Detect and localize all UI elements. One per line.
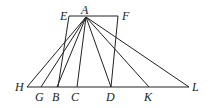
geometry-diagram: A E F H G B C D K L <box>0 0 209 108</box>
segment-AD <box>86 17 111 87</box>
segment-AG <box>41 17 86 87</box>
label-E: E <box>59 9 68 23</box>
segment-AL <box>86 17 189 87</box>
segment-AK <box>86 17 149 87</box>
label-B: B <box>52 90 60 104</box>
label-L: L <box>191 80 199 94</box>
label-K: K <box>143 90 153 104</box>
label-C: C <box>71 90 80 104</box>
segment-AH <box>27 17 86 87</box>
label-F: F <box>121 9 130 23</box>
label-G: G <box>35 90 44 104</box>
label-A: A <box>80 3 89 17</box>
label-D: D <box>105 90 115 104</box>
label-H: H <box>14 80 25 94</box>
